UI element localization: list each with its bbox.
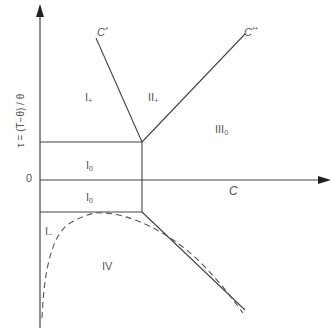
- c-double-star-main: C: [244, 26, 252, 38]
- region-label-iii-0: III0: [215, 124, 228, 136]
- region-label-i-0-lower: I0: [86, 192, 93, 204]
- region-label-i-plus: I+: [85, 92, 92, 104]
- x-axis-label: C: [229, 185, 238, 197]
- region-label-iv: IV: [102, 261, 112, 272]
- region-label-i-minus: I−: [45, 226, 52, 238]
- region-sub: −: [48, 231, 52, 238]
- c-star-line: [96, 38, 142, 142]
- x-axis-arrow-icon: [318, 176, 331, 184]
- y-axis-arrow-icon: [36, 4, 44, 17]
- c-double-star-line: [142, 34, 245, 142]
- c-star-label: C*: [97, 26, 108, 38]
- dashed-curve: [42, 213, 243, 318]
- c-star-main: C: [97, 26, 105, 38]
- y-zero-label: 0: [26, 173, 32, 184]
- c-double-star-label: C**: [244, 26, 257, 38]
- region-label-ii-plus: II+: [148, 92, 158, 104]
- c-double-star-sup: **: [252, 26, 257, 33]
- region-main: III: [215, 123, 224, 135]
- region-sub: +: [88, 97, 92, 104]
- y-axis-label: τ = (T−θ) / θ: [15, 71, 26, 171]
- region-label-i-0-upper: I0: [86, 160, 93, 172]
- c-star-sup: *: [105, 26, 108, 33]
- phase-diagram: [0, 0, 332, 334]
- region-sub: 0: [89, 197, 93, 204]
- region-sub: +: [154, 97, 158, 104]
- region-main: IV: [102, 260, 112, 272]
- region-sub: 0: [224, 129, 228, 136]
- region-sub: 0: [89, 165, 93, 172]
